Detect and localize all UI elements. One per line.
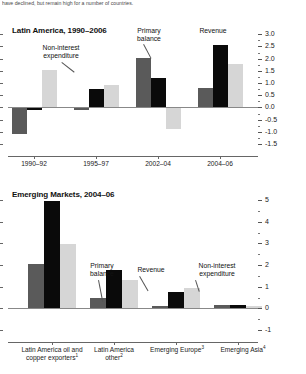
ylabel-bottom-6: -1 — [265, 326, 271, 333]
panel-emerging-markets: Emerging Markets, 2004–06 Primary bala — [0, 188, 306, 374]
ytick-minor-top-5 — [258, 101, 260, 102]
figure-root: have declined, but remain high for a num… — [0, 0, 306, 374]
annotation-bottom-primary: Primary balance — [78, 262, 126, 278]
bar-top-g4-noninterest — [228, 64, 243, 107]
annotation-bottom-primary-line2: balance — [78, 270, 126, 278]
ylabel-bottom-1: 4 — [265, 218, 269, 225]
annotation-bottom-revenue: Revenue — [128, 266, 174, 274]
bar-top-g1-revenue — [27, 108, 42, 110]
annotation-top-primary: Primary balance — [125, 27, 173, 43]
xlabel-bottom-1-line2: other2 — [82, 354, 146, 362]
left-tick-top-8 — [0, 132, 3, 133]
left-tick-top-3 — [0, 71, 3, 72]
ytick-minor-top-0 — [258, 40, 260, 41]
left-tick-bottom-3 — [0, 265, 3, 266]
xtick-bottom-3 — [238, 342, 239, 345]
ylabel-bottom-0: 5 — [265, 196, 269, 203]
bar-bottom-g2-primary-balance — [90, 298, 106, 308]
ylabel-bottom-2: 3 — [265, 239, 269, 246]
xlabel-bottom-1-line1: Latin America — [82, 346, 146, 354]
left-tick-top-7 — [0, 120, 3, 121]
xlabel-top-0: 1990–92 — [6, 160, 62, 167]
left-tick-bottom-5 — [0, 308, 3, 309]
left-tick-bottom-2 — [0, 243, 3, 244]
xtick-bottom-1 — [114, 342, 115, 345]
annotation-bottom-noninterest-line1: Non-interest — [186, 262, 248, 270]
bar-bottom-g3-revenue — [168, 292, 184, 308]
ytick-top-3 — [258, 71, 262, 72]
left-tick-bottom-4 — [0, 287, 3, 288]
bar-top-g4-primary-balance — [198, 88, 213, 107]
left-tick-bottom-0 — [0, 200, 3, 201]
xlabel-bottom-2: Emerging Europe3 — [144, 346, 210, 354]
annotation-bottom-primary-line1: Primary — [78, 262, 126, 270]
annotation-top-primary-line2: balance — [125, 35, 173, 43]
panel-latin-america: Latin America, 1990–2006 — [0, 22, 306, 172]
ylabel-top-5: 0.5 — [265, 91, 275, 98]
ylabel-top-1: 2.5 — [265, 42, 275, 49]
left-tick-top-4 — [0, 83, 3, 84]
xlabel-bottom-1: Latin America other2 — [82, 346, 146, 362]
zero-line-bottom — [8, 308, 258, 309]
ytick-minor-bottom-5 — [258, 319, 260, 320]
ytick-minor-top-6 — [258, 114, 260, 115]
ytick-minor-top-2 — [258, 65, 260, 66]
ytick-bottom-2 — [258, 243, 262, 244]
ytick-top-1 — [258, 46, 262, 47]
annotation-bottom-noninterest: Non-interest expenditure — [186, 262, 248, 278]
ytick-bottom-6 — [258, 330, 262, 331]
figure-caption: have declined, but remain high for a num… — [2, 0, 304, 7]
left-tick-top-5 — [0, 95, 3, 96]
bar-bottom-g1-revenue — [44, 201, 60, 308]
ytick-minor-bottom-4 — [258, 298, 260, 299]
xlabel-bottom-2-line1: Emerging Europe3 — [144, 346, 210, 354]
ylabel-top-4: 1.0 — [265, 79, 275, 86]
footnote-marker-4: 4 — [263, 345, 266, 350]
ylabel-top-9: -1.5 — [265, 140, 277, 147]
ylabel-top-8: -1.0 — [265, 128, 277, 135]
ylabel-bottom-4: 1 — [265, 283, 269, 290]
left-tick-top-0 — [0, 34, 3, 35]
ytick-top-9 — [258, 144, 262, 145]
xlabel-bottom-3: Emerging Asia4 — [212, 346, 274, 354]
ytick-top-5 — [258, 95, 262, 96]
ytick-top-7 — [258, 120, 262, 121]
left-tick-bottom-1 — [0, 222, 3, 223]
ytick-minor-bottom-3 — [258, 276, 260, 277]
ylabel-top-3: 1.5 — [265, 67, 275, 74]
footnote-marker-2: 2 — [120, 353, 123, 358]
bar-top-g3-revenue — [151, 78, 166, 107]
footnote-marker-1: 1 — [75, 353, 78, 358]
bar-bottom-g4-primary-balance — [214, 305, 230, 308]
ylabel-top-6: 0.0 — [265, 103, 275, 110]
bar-bottom-g3-primary-balance — [152, 306, 168, 308]
xlabel-top-1: 1995–97 — [68, 160, 124, 167]
ytick-minor-bottom-1 — [258, 233, 260, 234]
annotation-bottom-noninterest-line2: expenditure — [186, 270, 248, 278]
annotation-top-revenue: Revenue — [190, 27, 236, 35]
ytick-bottom-5 — [258, 308, 262, 309]
ytick-minor-top-8 — [258, 138, 260, 139]
annotation-top-primary-line1: Primary — [125, 27, 173, 35]
ytick-top-6 — [258, 107, 262, 108]
ytick-bottom-0 — [258, 200, 262, 201]
ytick-minor-top-4 — [258, 89, 260, 90]
annotation-top-noninterest-line1: Non-interest — [30, 44, 92, 52]
ytick-minor-bottom-0 — [258, 211, 260, 212]
ylabel-bottom-3: 2 — [265, 261, 269, 268]
footnote-marker-3: 3 — [201, 345, 204, 350]
ylabel-top-7: -0.5 — [265, 116, 277, 123]
ytick-top-8 — [258, 132, 262, 133]
annotation-top-noninterest: Non-interest expenditure — [30, 44, 92, 60]
annotation-bottom-revenue-label: Revenue — [137, 266, 164, 273]
yaxis-top: 3.0 2.5 2.0 1.5 1.0 0.5 0.0 -0.5 -1.0 -1… — [258, 22, 306, 172]
axis-line-bottom — [8, 342, 258, 343]
ytick-bottom-3 — [258, 265, 262, 266]
bar-bottom-g2-noninterest — [122, 280, 138, 308]
ytick-minor-top-7 — [258, 126, 260, 127]
bar-bottom-g1-noninterest — [60, 244, 76, 308]
bar-top-g4-revenue — [213, 45, 228, 107]
bar-top-g3-noninterest — [166, 108, 181, 129]
ylabel-bottom-5: 0 — [265, 304, 269, 311]
axis-line-top — [8, 156, 258, 157]
